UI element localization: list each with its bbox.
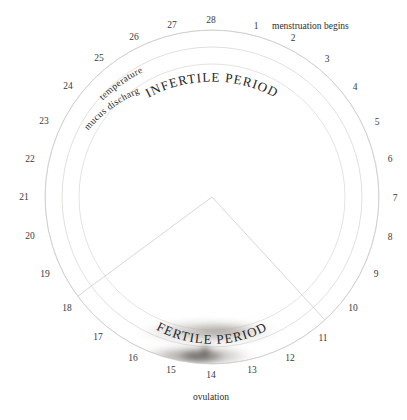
day-number-17: 17 [93,332,103,342]
day-number-5: 5 [375,117,380,127]
day-number-6: 6 [388,154,393,164]
ovulation-label: ovulation [193,392,229,402]
day-number-10: 10 [348,303,358,313]
day-number-16: 16 [128,353,138,363]
infertile-period-label: INFERTILE PERIOD [143,70,281,101]
day-number-26: 26 [129,32,139,42]
day-number-11: 11 [318,333,327,343]
day-number-12: 12 [285,353,295,363]
wedge-line-left [78,197,212,296]
day-number-2: 2 [291,33,296,43]
day-number-9: 9 [374,269,379,279]
day-number-21: 21 [19,192,29,202]
cycle-diagram: INFERTILE PERIOD FERTILE PERIOD temperat… [0,0,407,420]
day-number-8: 8 [388,232,393,242]
day-number-15: 15 [166,365,176,375]
day-number-3: 3 [325,54,330,64]
day-number-7: 7 [393,193,398,203]
day-number-14: 14 [206,370,216,380]
day-number-27: 27 [167,20,177,30]
wedge-line-right [212,197,325,320]
menstruation-begins-label: menstruation begins [272,21,349,31]
day-number-23: 23 [39,116,49,126]
day-number-25: 25 [94,53,104,63]
day-number-19: 19 [40,269,50,279]
cycle-diagram-canvas: INFERTILE PERIOD FERTILE PERIOD temperat… [0,0,407,420]
day-number-1: 1 [254,21,259,31]
day-number-24: 24 [63,81,73,91]
day-number-20: 20 [25,231,35,241]
day-number-18: 18 [62,303,72,313]
day-number-28: 28 [206,15,216,25]
day-number-13: 13 [247,365,257,375]
day-number-22: 22 [25,154,35,164]
day-number-4: 4 [353,82,358,92]
